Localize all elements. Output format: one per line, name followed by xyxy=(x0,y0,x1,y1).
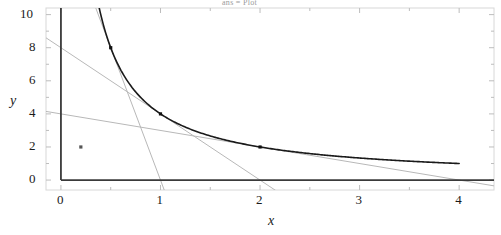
x-tick-label: 3 xyxy=(356,192,363,208)
axis-lines xyxy=(61,8,494,180)
y-tick-label: 6 xyxy=(29,72,36,88)
y-tick-label: 0 xyxy=(29,171,36,187)
x-tick-label: 4 xyxy=(455,192,462,208)
tangent-lines xyxy=(46,0,494,235)
y-axis-label: y xyxy=(10,93,16,109)
x-axis-label: x xyxy=(268,213,274,229)
y-tick-label: 8 xyxy=(29,39,36,55)
y-tick-label: 4 xyxy=(29,105,36,121)
plot-canvas xyxy=(0,0,501,235)
x-tick-label: 1 xyxy=(156,192,163,208)
y-tick-label: 10 xyxy=(20,6,33,22)
chart-figure: ans = Plot 01234 0246810 x y xyxy=(0,0,501,235)
x-tick-label: 0 xyxy=(57,192,64,208)
data-point-markers xyxy=(79,46,261,148)
x-tick-label: 2 xyxy=(256,192,263,208)
data-curve xyxy=(99,6,459,164)
y-tick-label: 2 xyxy=(29,138,36,154)
